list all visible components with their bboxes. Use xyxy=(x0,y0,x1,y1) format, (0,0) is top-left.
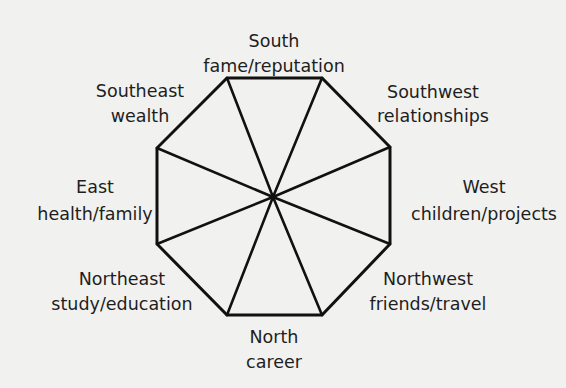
bagua-diagram: South fame/reputation Southwest relation… xyxy=(0,0,566,388)
direction-label: Southwest xyxy=(387,82,479,102)
area-label: relationships xyxy=(377,106,489,126)
area-label: health/family xyxy=(37,204,152,224)
area-label: fame/reputation xyxy=(203,56,344,76)
direction-label: Southeast xyxy=(96,81,184,101)
direction-label: Northeast xyxy=(79,269,166,289)
sector-label-west: West children/projects xyxy=(411,177,557,224)
spoke-line xyxy=(227,197,273,315)
area-label: career xyxy=(246,352,303,372)
sector-label-south: South fame/reputation xyxy=(203,31,344,76)
area-label: study/education xyxy=(51,294,192,314)
sector-label-southwest: Southwest relationships xyxy=(377,82,489,126)
direction-label: East xyxy=(76,177,114,197)
direction-label: South xyxy=(249,31,300,51)
area-label: children/projects xyxy=(411,204,557,224)
sector-labels: South fame/reputation Southwest relation… xyxy=(37,31,557,372)
sector-label-northeast: Northeast study/education xyxy=(51,269,192,314)
direction-label: North xyxy=(250,327,299,347)
sector-label-east: East health/family xyxy=(37,177,152,224)
area-label: wealth xyxy=(111,106,170,126)
sector-label-north: North career xyxy=(246,327,303,372)
sector-label-northwest: Northwest friends/travel xyxy=(370,269,487,314)
direction-label: West xyxy=(462,177,505,197)
spoke-line xyxy=(157,197,273,244)
sector-label-southeast: Southeast wealth xyxy=(96,81,184,126)
octagon-diagram-svg: South fame/reputation Southwest relation… xyxy=(0,0,566,388)
direction-label: Northwest xyxy=(383,269,473,289)
area-label: friends/travel xyxy=(370,294,487,314)
center-point xyxy=(271,195,276,200)
